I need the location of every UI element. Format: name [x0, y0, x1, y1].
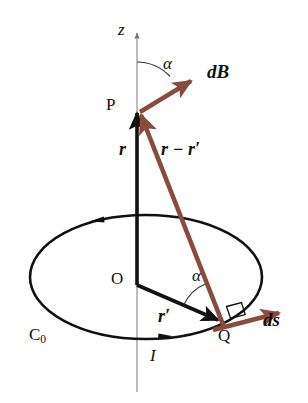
point-p-label: P [106, 96, 115, 113]
vector-r-minus-r-prime-label: r − r′ [161, 140, 200, 158]
loop-label: C0 [29, 326, 46, 346]
diagram-canvas [0, 0, 308, 403]
angle-arc-at-q [184, 284, 207, 306]
vector-ds-label: ds [263, 310, 280, 329]
vector-r-label: r [119, 140, 126, 158]
vector-dB-label: dB [207, 62, 229, 81]
current-loop-ellipse [30, 215, 262, 339]
angle-alpha-bottom-label: α [192, 267, 201, 284]
vector-dB [140, 81, 191, 112]
loop-label-subscript: 0 [40, 333, 46, 346]
point-q-label: Q [218, 327, 230, 344]
loop-label-text: C [29, 325, 40, 344]
current-label: I [150, 347, 156, 364]
point-o-label: O [111, 270, 123, 287]
vector-r-prime [137, 285, 218, 320]
vector-r-prime-label: r′ [158, 307, 170, 325]
angle-alpha-top-label: α [163, 55, 172, 72]
biot-savart-diagram: z P α dB r r − r′ O α r′ ds Q C0 I [0, 0, 308, 403]
z-axis-label: z [118, 21, 125, 38]
